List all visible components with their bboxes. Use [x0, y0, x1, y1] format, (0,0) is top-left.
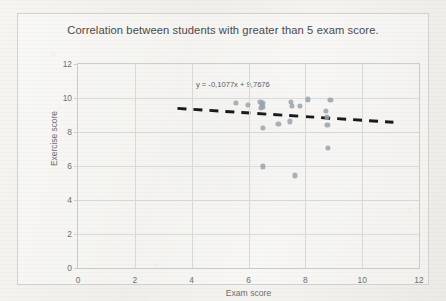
- y-tick-mark: [74, 64, 78, 65]
- y-tick-label: 2: [67, 229, 72, 239]
- y-tick-label: 10: [63, 93, 72, 103]
- x-tick-label: 12: [414, 275, 423, 285]
- y-tick-mark: [74, 268, 78, 269]
- y-tick-mark: [74, 234, 78, 235]
- chart-frame: Correlation between students with greate…: [17, 13, 429, 285]
- gridline-vertical: [362, 64, 363, 268]
- x-tick-label: 6: [246, 275, 251, 285]
- y-tick-label: 6: [67, 161, 72, 171]
- x-tick-label: 10: [357, 275, 366, 285]
- y-tick-label: 0: [67, 263, 72, 273]
- y-tick-mark: [74, 166, 78, 167]
- gridline-vertical: [305, 64, 306, 268]
- gridline-vertical: [192, 64, 193, 268]
- x-tick-label: 8: [303, 275, 308, 285]
- y-tick-label: 12: [63, 59, 72, 69]
- x-tick-label: 0: [76, 275, 81, 285]
- x-axis-title: Exam score: [78, 288, 419, 298]
- plot-area: y = -0,1077x + 9,7676 Exam score 0246810…: [77, 63, 420, 269]
- y-tick-label: 4: [67, 195, 72, 205]
- gridline-vertical: [249, 64, 250, 268]
- y-tick-mark: [74, 98, 78, 99]
- y-tick-mark: [74, 200, 78, 201]
- y-tick-label: 8: [67, 127, 72, 137]
- y-axis-title: Exercise score: [49, 111, 59, 166]
- chart-title: Correlation between students with greate…: [18, 24, 428, 36]
- x-tick-label: 2: [132, 275, 137, 285]
- gridline-vertical: [135, 64, 136, 268]
- y-tick-mark: [74, 132, 78, 133]
- x-tick-label: 4: [189, 275, 194, 285]
- trendline-equation-label: y = -0,1077x + 9,7676: [196, 79, 270, 88]
